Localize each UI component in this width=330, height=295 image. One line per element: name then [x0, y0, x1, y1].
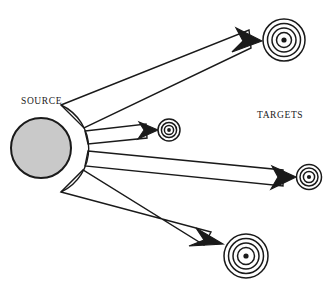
- target-right[interactable]: [297, 165, 322, 190]
- target-center-dot: [167, 128, 171, 132]
- beam-group: [61, 28, 296, 246]
- beam-body-lower: [61, 170, 211, 245]
- target-center-dot: [307, 175, 311, 179]
- target-center-dot: [281, 37, 286, 42]
- beam-to-target-center-small[interactable]: [85, 122, 158, 144]
- source-node[interactable]: [11, 118, 71, 178]
- source-label: SOURCE: [21, 96, 62, 106]
- beam-body-upper-right: [61, 30, 251, 128]
- target-center-small[interactable]: [158, 119, 180, 141]
- beam-to-target-upper-right[interactable]: [61, 28, 262, 128]
- beam-body-right: [85, 151, 283, 186]
- source-circle: [11, 118, 71, 178]
- diagram-canvas: SOURCE TARGETS: [0, 0, 330, 295]
- target-upper-right[interactable]: [263, 19, 305, 61]
- target-center-dot: [243, 253, 248, 258]
- target-lower[interactable]: [224, 234, 268, 278]
- diagram-svg: [0, 0, 330, 295]
- beam-body-center-small: [85, 124, 147, 144]
- beam-to-target-lower[interactable]: [61, 170, 223, 246]
- beam-to-target-right[interactable]: [85, 151, 296, 189]
- targets-label: TARGETS: [257, 110, 303, 120]
